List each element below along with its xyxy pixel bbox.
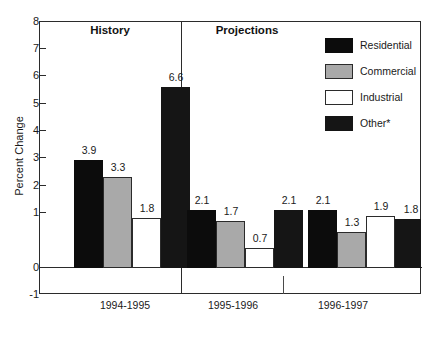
legend-swatch-commercial: [325, 64, 353, 79]
legend-swatch-industrial: [325, 90, 353, 105]
legend-label-other: Other*: [360, 117, 390, 130]
bar-label-residential-1995-1996: 2.1: [183, 195, 221, 206]
bar-industrial-1994-1995[interactable]: [132, 218, 161, 268]
bar-label-commercial-1994-1995: 3.3: [99, 162, 137, 173]
section-heading-history: History: [39, 24, 181, 36]
y-tick-mark-4: [39, 130, 46, 131]
y-tick-label-2: 2: [11, 180, 39, 191]
section-heading-projections: Projections: [182, 24, 312, 36]
legend-item-commercial[interactable]: Commercial: [325, 62, 421, 84]
legend-swatch-residential: [325, 38, 353, 53]
legend-item-industrial[interactable]: Industrial: [325, 88, 421, 110]
bar-residential-1994-1995[interactable]: [74, 160, 103, 268]
y-tick-label-8: 8: [11, 16, 39, 27]
y-tick-mark-2: [39, 185, 46, 186]
x-group-label-1996-1997: 1996-1997: [288, 299, 398, 311]
y-tick-mark-1: [39, 212, 46, 213]
legend-swatch-other: [325, 116, 353, 131]
legend-label-industrial: Industrial: [360, 91, 403, 104]
bar-industrial-1995-1996[interactable]: [245, 248, 274, 268]
bar-residential-1995-1996[interactable]: [187, 210, 216, 268]
bar-label-residential-1994-1995: 3.9: [70, 145, 108, 156]
y-tick-mark-5: [39, 103, 46, 104]
y-tick-label-5: 5: [11, 98, 39, 109]
y-tick-label-4: 4: [11, 125, 39, 136]
bar-industrial-1996-1997[interactable]: [366, 216, 395, 268]
y-tick-mark-6: [39, 75, 46, 76]
bar-commercial-1995-1996[interactable]: [216, 221, 245, 268]
y-axis: Percent Change 8 7 6 5 4 3 2 1 0 -1: [0, 0, 39, 342]
bar-label-other-1995-1996: 2.1: [270, 195, 308, 206]
bar-other-1996-1997[interactable]: [395, 219, 421, 268]
bar-chart-figure: Percent Change 8 7 6 5 4 3 2 1 0 -1 Hist…: [0, 0, 433, 342]
legend-item-other[interactable]: Other*: [325, 114, 421, 136]
bar-label-commercial-1995-1996: 1.7: [212, 206, 250, 217]
bar-commercial-1996-1997[interactable]: [337, 232, 366, 268]
bar-commercial-1994-1995[interactable]: [103, 177, 132, 268]
bar-label-other-1994-1995: 6.6: [157, 72, 195, 83]
bar-other-1995-1996[interactable]: [274, 210, 303, 268]
y-tick-label-1: 1: [11, 207, 39, 218]
bar-label-other-1996-1997: 1.8: [392, 204, 430, 215]
bar-label-residential-1996-1997: 2.1: [304, 195, 342, 206]
y-tick-label-6: 6: [11, 70, 39, 81]
legend-item-residential[interactable]: Residential: [325, 36, 421, 58]
x-group-label-1994-1995: 1994-1995: [70, 299, 180, 311]
bar-other-1994-1995[interactable]: [161, 87, 190, 268]
y-tick-mark-7: [39, 48, 46, 49]
y-tick-label-neg1: -1: [11, 289, 39, 300]
chart-legend: Residential Commercial Industrial Other*: [325, 36, 421, 140]
group-separator-tick: [283, 276, 284, 294]
y-tick-mark-3: [39, 157, 46, 158]
y-tick-label-0: 0: [11, 262, 39, 273]
x-group-label-1995-1996: 1995-1996: [178, 299, 288, 311]
y-tick-label-7: 7: [11, 43, 39, 54]
legend-label-commercial: Commercial: [360, 65, 416, 78]
y-tick-label-3: 3: [11, 152, 39, 163]
legend-label-residential: Residential: [360, 39, 412, 52]
